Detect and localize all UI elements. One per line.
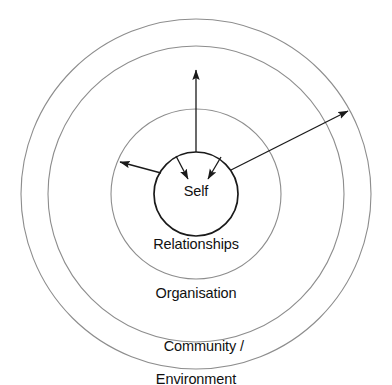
ring-label-community-line2: Environment xyxy=(0,371,392,385)
arrow-inward-left-icon xyxy=(176,156,188,179)
ring-label-relationships: Relationships xyxy=(0,236,392,252)
diagram-canvas: Self Relationships Organisation Communit… xyxy=(0,0,392,385)
arrow-outward-upper-left-icon xyxy=(120,162,161,173)
ring-label-organisation: Organisation xyxy=(0,285,392,301)
ring-label-community-environment: Community / Environment xyxy=(0,322,392,385)
ring-label-self: Self xyxy=(0,183,392,199)
arrow-outward-upper-right-icon xyxy=(231,111,348,170)
arrow-inward-right-icon xyxy=(208,157,221,179)
ring-label-community-line1: Community / xyxy=(164,338,244,354)
